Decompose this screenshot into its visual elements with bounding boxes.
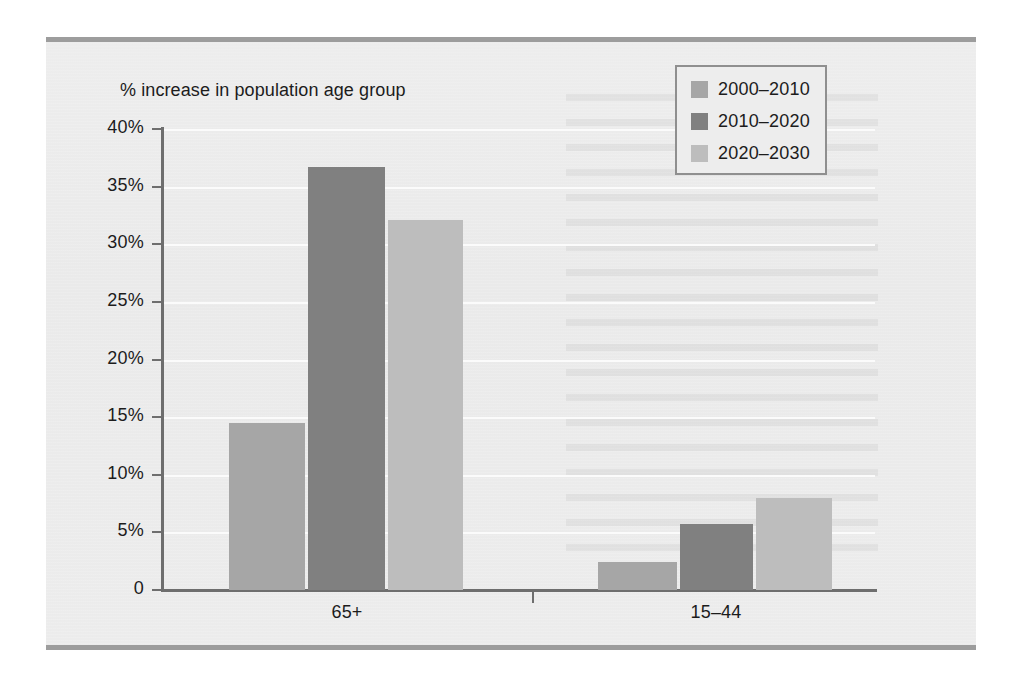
chart-page: % increase in population age group 05%10… xyxy=(0,0,1026,686)
bar[interactable] xyxy=(388,220,463,590)
bar[interactable] xyxy=(598,562,677,590)
legend: 2000–2010 2010–2020 2020–2030 xyxy=(675,65,827,175)
legend-label: 2010–2020 xyxy=(718,111,810,132)
legend-swatch-icon xyxy=(691,145,708,162)
legend-item-2020-2030[interactable]: 2020–2030 xyxy=(691,143,810,164)
x-axis-tick xyxy=(532,592,534,603)
legend-item-2000-2010[interactable]: 2000–2010 xyxy=(691,79,810,100)
x-axis-category-label: 65+ xyxy=(277,602,417,623)
bar-layer xyxy=(0,0,1026,686)
legend-item-2010-2020[interactable]: 2010–2020 xyxy=(691,111,810,132)
bar[interactable] xyxy=(680,524,753,590)
legend-label: 2020–2030 xyxy=(718,143,810,164)
x-axis-category-label: 15–44 xyxy=(646,602,786,623)
legend-label: 2000–2010 xyxy=(718,79,810,100)
bar[interactable] xyxy=(756,498,832,590)
legend-swatch-icon xyxy=(691,81,708,98)
bar[interactable] xyxy=(308,167,385,590)
bar[interactable] xyxy=(229,423,305,590)
legend-swatch-icon xyxy=(691,113,708,130)
